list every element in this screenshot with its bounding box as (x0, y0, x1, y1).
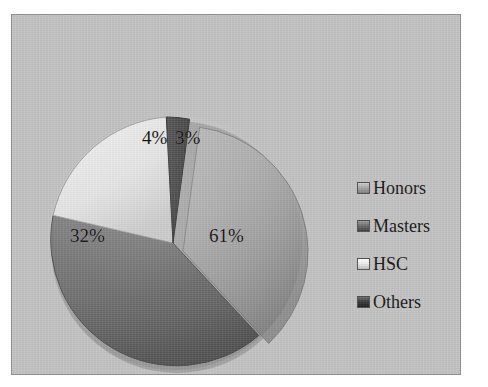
pie-label-hsc: 4% (142, 128, 167, 147)
legend-swatch-icon (357, 258, 370, 270)
caption-remnant (36, 0, 236, 5)
plot-area: 61% 32% 4% 3% Honors Masters HSC (12, 15, 460, 374)
legend-swatch-icon (357, 182, 370, 194)
legend-item-hsc[interactable]: HSC (357, 245, 462, 283)
pie-label-honors: 61% (209, 226, 244, 245)
legend-swatch-icon (357, 220, 370, 232)
pie-label-others: 3% (175, 128, 200, 147)
legend-item-masters[interactable]: Masters (357, 207, 462, 245)
figure-root: 61% 32% 4% 3% Honors Masters HSC (0, 0, 488, 387)
legend-item-others[interactable]: Others (357, 283, 462, 321)
pie-label-masters: 32% (70, 226, 105, 245)
legend-item-label: Honors (373, 179, 426, 197)
chart-legend: Honors Masters HSC Others (357, 169, 462, 321)
legend-item-label: Others (373, 293, 421, 311)
legend-item-honors[interactable]: Honors (357, 169, 462, 207)
legend-item-label: Masters (373, 217, 430, 235)
legend-item-label: HSC (373, 255, 408, 273)
chart-frame: 61% 32% 4% 3% Honors Masters HSC (11, 14, 461, 375)
legend-swatch-icon (357, 296, 370, 308)
